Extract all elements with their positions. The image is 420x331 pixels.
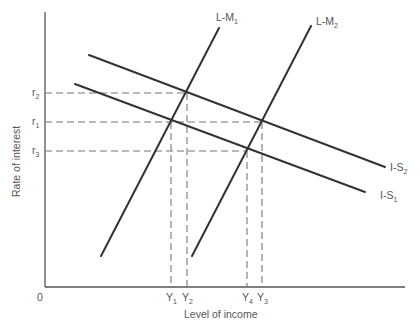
curve-labels: L-M1 L-M2 I-S2 I-S1: [216, 11, 407, 203]
label-r1: r1: [32, 115, 40, 129]
is-lm-diagram: L-M1 L-M2 I-S2 I-S1 r2 r1 r3 Y1 Y2 Y4 Y3…: [0, 0, 420, 331]
label-lm1: L-M1: [216, 11, 238, 25]
rate-labels: r2 r1 r3: [32, 86, 40, 158]
curve-is2: [89, 55, 385, 167]
guide-lines: [45, 93, 262, 287]
label-y1: Y1: [166, 291, 177, 305]
label-r3: r3: [32, 144, 40, 158]
label-y3: Y3: [257, 291, 268, 305]
axes: [45, 12, 405, 287]
curves: [75, 26, 385, 256]
origin-label: 0: [37, 291, 43, 303]
y-axis-title: Rate of interest: [10, 126, 22, 197]
x-axis-title: Level of income: [184, 308, 258, 320]
curve-is1: [75, 84, 365, 192]
label-y4: Y4: [242, 291, 253, 305]
label-lm2: L-M2: [316, 15, 338, 29]
label-is1: I-S1: [380, 189, 397, 203]
label-y2: Y2: [182, 291, 193, 305]
income-labels: Y1 Y2 Y4 Y3: [166, 291, 268, 305]
label-is2: I-S2: [390, 161, 407, 175]
curve-lm1: [101, 28, 219, 256]
curve-lm2: [192, 26, 311, 256]
label-r2: r2: [32, 86, 40, 100]
